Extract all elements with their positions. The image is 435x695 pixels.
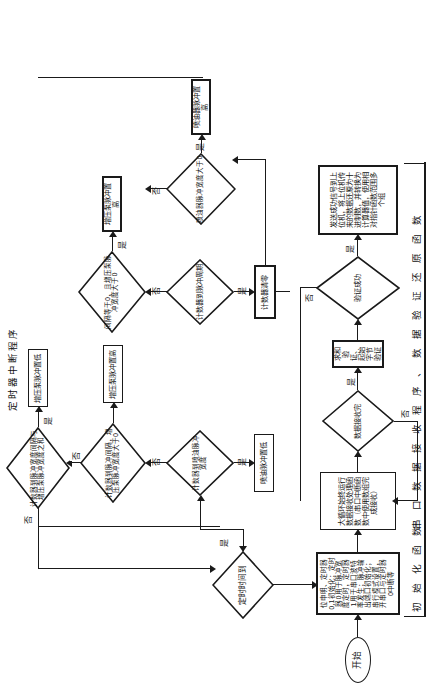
edge-recv-to-verify (357, 372, 358, 390)
process-counter-clear: 计数器清零 (254, 265, 276, 319)
group-underline-left-tick (404, 616, 425, 617)
process-injector-pulse-high-label: 喷油器脉冲置高 (193, 84, 209, 130)
flowchart-rotated-layer: 开始 位申明、定时器0,1初始化；定时器0用于脉冲宽度定时，定时器1用于串口波特… (0, 0, 435, 695)
edge-d6-yes-right (201, 139, 202, 153)
process-result-label: 发送成功信号到上位机，将上位机传来的数据还原为十进制数，并转换为计算器值，使用相… (330, 170, 386, 230)
group-label-serial: 串 口 数 据 接 收 程 序 、 数 据 验 证 还 原 函 数 (409, 212, 423, 529)
decision-interval-zero-booster: 间隔等于0，且增压泵脉冲宽度大于0 (78, 251, 146, 333)
arrowhead-recv-no (392, 497, 398, 505)
process-counter-clear-label: 计数器清零 (261, 275, 269, 310)
edge-right-down (236, 159, 266, 160)
decision-counter-injector-width: 计数器到喷油脉冲宽度 (166, 430, 234, 496)
process-injector-pulse-high: 喷油器脉冲置高 (191, 79, 211, 135)
process-init-label: 位申明、定时器0,1初始化；定时器0用于脉冲宽度定时，定时器1用于串口波特率发生… (321, 557, 395, 610)
decision-counter-injector-width-label: 计数器到喷油脉冲宽度 (166, 430, 234, 496)
edge-d4-yes-down (234, 291, 250, 292)
edge-d5-yes-right (112, 236, 113, 251)
terminator-start-label: 开始 (353, 651, 363, 669)
process-init: 位申明、定时器0,1初始化；定时器0用于脉冲宽度定时，定时器1用于串口波特率发生… (316, 552, 400, 615)
edge-timer-yes-up (200, 529, 244, 530)
decision-data-received-label: 数据接收完 (322, 390, 394, 452)
process-booster-pulse-high-label: 增压泵脉冲置高 (109, 350, 117, 399)
process-injector-pulse-low: 喷油脉冲置低 (254, 434, 274, 492)
edge-init-to-loop (357, 534, 358, 552)
edge-counterclear-to-right (265, 159, 266, 265)
edge-verify-no-up (300, 287, 317, 288)
decision-timer-elapsed: 定时时间到 (212, 551, 274, 619)
process-verify-label: 求和验证、起始字节验证 (334, 345, 382, 363)
decision-width-interval-sum: 计数器到脉冲宽度间隔与增压泵脉冲宽度之和 (6, 427, 70, 509)
process-result: 发送成功信号到上位机，将上位机传来的数据还原为十进制数，并转换为计算器值，使用相… (318, 165, 398, 235)
edge-d5-to-d6 (276, 291, 290, 292)
process-booster-pulse-high-2: 增压泵脉冲置高 (102, 176, 122, 232)
edge-label-verify-no: 否 (303, 293, 314, 303)
edge-label-timer-yes: 是 (218, 538, 229, 548)
edge-label-d3-yes: 是 (42, 416, 53, 426)
decision-width-interval-sum-label: 计数器到脉冲宽度间隔与增压泵脉冲宽度之和 (6, 427, 70, 509)
edge-label-d2-no: 否 (70, 451, 81, 461)
edge-return-top (38, 525, 39, 569)
process-main-loop: 大循环始终运行数据接收处理函数（串口中断函数中使用数组完成接收） (320, 472, 396, 530)
decision-interval-zero-booster-label: 间隔等于0，且增压泵脉冲宽度大于0 (78, 251, 146, 333)
decision-injector-width-positive: 喷油器脉冲宽度大于0 (166, 153, 236, 225)
edge-verify-no-left (300, 287, 301, 501)
terminator-start: 开始 (345, 637, 371, 683)
process-booster-pulse-high: 增压泵脉冲置高 (103, 345, 123, 403)
process-verify: 求和验证、起始字节验证 (332, 340, 384, 368)
decision-pulse-interval-booster-label: 计数器到脉冲间隔，增压泵脉冲宽度大于0 (80, 423, 146, 503)
process-booster-pulse-low: 增压泵脉冲置低 (28, 349, 48, 407)
group-underline-right-tick (404, 163, 425, 164)
group-label-timer-isr: 定时器中断程序 (5, 327, 19, 411)
edge-init-to-timer-up (268, 584, 316, 585)
process-main-loop-label: 大循环始终运行数据接收处理函数（串口中断函数中使用数组完成接收） (338, 476, 378, 526)
process-injector-pulse-low-label: 喷油脉冲置低 (260, 442, 268, 484)
edge-label-d3-no: 否 (22, 515, 33, 525)
edge-d3-yes-right (38, 411, 39, 427)
decision-timer-elapsed-label: 定时时间到 (212, 551, 274, 619)
edge-d2-yes-right (113, 407, 114, 423)
edge-d1-no-up (150, 462, 167, 463)
edge-loop-to-recv (357, 456, 358, 472)
edge-d4-no-up (150, 291, 167, 292)
process-booster-pulse-low-label: 增压泵脉冲置低 (34, 354, 42, 403)
edge-verify-to-decision (357, 324, 358, 340)
arrowhead-return-to-timer (210, 565, 216, 573)
edge-return-left-down (38, 568, 213, 569)
group-underline-bottom (424, 162, 426, 617)
group-label-init: 初 始 化 函 数 (409, 523, 423, 612)
edge-label-recv-yes: 是 (345, 377, 356, 387)
flowchart-canvas: 开始 位申明、定时器0,1初始化；定时器0用于脉冲宽度定时，定时器1用于串口波特… (0, 0, 435, 695)
edge-label-d6-yes: 是 (194, 142, 205, 152)
process-booster-pulse-high-2-label: 增压泵脉冲置高 (104, 181, 120, 227)
arrowhead-timer-to-init (312, 581, 318, 589)
edge-start-to-init (357, 619, 358, 637)
decision-counter-period: 计数器到脉冲周期 (166, 259, 234, 325)
arrowhead-right-feed (232, 156, 238, 164)
edge-label-d5-yes: 是 (116, 240, 127, 250)
edge-label-verify-yes: 是 (344, 244, 355, 254)
decision-verify-success: 验证成功 (316, 256, 400, 320)
edge-left-trunk (38, 526, 220, 527)
decision-injector-width-positive-label: 喷油器脉冲宽度大于0 (166, 153, 236, 225)
decision-data-received: 数据接收完 (322, 390, 394, 452)
decision-verify-success-label: 验证成功 (316, 256, 400, 320)
edge-d6-no-up (150, 188, 167, 189)
edge-d1-yes-down (234, 462, 250, 463)
edge-verify-to-result (357, 239, 358, 256)
decision-counter-period-label: 计数器到脉冲周期 (166, 259, 234, 325)
arrowhead-left-trunk (239, 546, 247, 552)
decision-pulse-interval-booster: 计数器到脉冲间隔，增压泵脉冲宽度大于0 (80, 423, 146, 503)
arrowhead-d6-no (145, 185, 151, 193)
edge-return-up-right (38, 77, 203, 78)
